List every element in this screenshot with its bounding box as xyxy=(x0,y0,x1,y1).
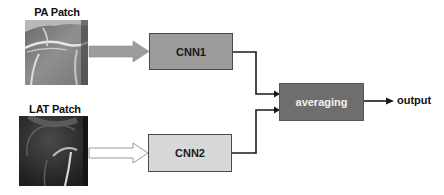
averaging-node: averaging xyxy=(279,83,364,121)
output-label: output xyxy=(397,94,431,106)
cnn1-to-averaging-connector xyxy=(233,52,280,98)
cnn1-node: CNN1 xyxy=(149,33,233,70)
cnn1-label: CNN1 xyxy=(176,46,206,58)
cnn2-label: CNN2 xyxy=(175,147,205,159)
cnn2-to-averaging-connector xyxy=(232,107,280,154)
cnn2-node: CNN2 xyxy=(148,134,232,172)
lat-to-cnn2-arrow xyxy=(89,143,148,163)
averaging-to-output-arrow xyxy=(364,98,394,105)
pa-to-cnn1-arrow xyxy=(89,41,149,62)
averaging-label: averaging xyxy=(296,96,348,108)
